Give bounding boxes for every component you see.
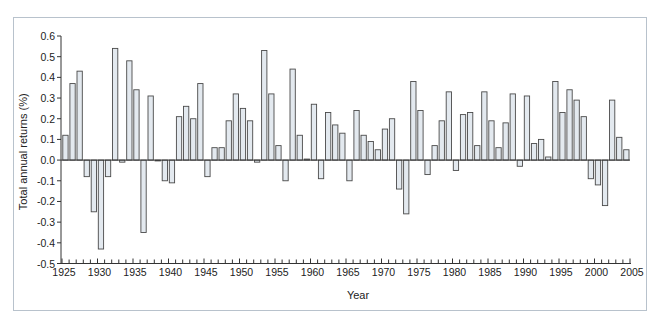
bar-1952 [247, 121, 252, 160]
y-tick-label: -0.4 [37, 237, 55, 249]
bar-1957 [283, 160, 288, 181]
bar-1985 [482, 92, 487, 160]
bar-1932 [105, 160, 110, 177]
bar-1965 [340, 133, 345, 160]
bar-1995 [553, 82, 558, 161]
x-tick-label: 1985 [478, 266, 502, 278]
bars [63, 48, 629, 249]
bar-1989 [510, 94, 515, 160]
bar-1927 [70, 84, 75, 161]
bar-1984 [475, 146, 480, 160]
x-tick-label: 2005 [620, 266, 644, 278]
bar-1943 [184, 106, 189, 160]
bar-1969 [368, 141, 373, 160]
bar-1968 [361, 135, 366, 160]
bar-1963 [326, 113, 331, 161]
bar-1978 [432, 146, 437, 160]
y-axis-title: Total annual returns (%) [17, 93, 29, 210]
x-tick-label: 1975 [407, 266, 431, 278]
y-tick-label: 0.4 [40, 71, 55, 83]
bar-1937 [141, 160, 146, 232]
bar-1998 [574, 100, 579, 160]
bar-1979 [439, 121, 444, 160]
bar-1975 [411, 82, 416, 161]
y-tick-label: 0.2 [40, 113, 55, 125]
bar-1948 [219, 148, 224, 160]
bar-1951 [240, 108, 245, 160]
bar-1977 [425, 160, 430, 174]
bar-1976 [418, 110, 423, 160]
x-tick-label: 1970 [372, 266, 396, 278]
bar-1988 [503, 123, 508, 160]
bar-1961 [311, 104, 316, 160]
bar-1947 [212, 148, 217, 160]
bar-1990 [517, 160, 522, 166]
bar-1949 [226, 121, 231, 160]
bar-1926 [63, 135, 68, 160]
bar-2001 [595, 160, 600, 185]
bar-1940 [162, 160, 167, 181]
x-tick-label: 1955 [265, 266, 289, 278]
bar-1982 [460, 115, 465, 161]
bar-1938 [148, 96, 153, 160]
bar-1959 [297, 135, 302, 160]
bar-1972 [389, 119, 394, 160]
bar-1956 [276, 146, 281, 160]
x-axis-ticks: 1925193019351940194519501955196019651970… [52, 259, 644, 278]
x-tick-label: 1945 [194, 266, 218, 278]
y-tick-label: 0.5 [40, 51, 55, 63]
y-tick-label: 0.0 [40, 154, 55, 166]
bar-1967 [354, 110, 359, 160]
bar-1942 [176, 117, 181, 160]
bar-1973 [397, 160, 402, 189]
x-tick-label: 1940 [159, 266, 183, 278]
bar-1955 [269, 94, 274, 160]
bar-1929 [84, 160, 89, 177]
bar-1944 [191, 119, 196, 160]
x-tick-label: 1965 [336, 266, 360, 278]
bar-1987 [496, 148, 501, 160]
y-tick-label: 0.3 [40, 92, 55, 104]
bar-1996 [560, 113, 565, 161]
bar-1999 [581, 117, 586, 160]
bar-1933 [113, 48, 118, 160]
bar-1992 [531, 144, 536, 161]
bar-1983 [468, 113, 473, 161]
y-axis-ticks: 0.60.50.40.30.20.10.0-0.1-0.2-0.3-0.4-0.… [37, 30, 61, 270]
x-tick-label: 1995 [549, 266, 573, 278]
x-tick-label: 2000 [585, 266, 609, 278]
y-tick-label: -0.3 [37, 216, 55, 228]
bar-1993 [539, 139, 544, 160]
bar-1945 [198, 84, 203, 161]
x-tick-label: 1930 [88, 266, 112, 278]
y-tick-label: -0.1 [37, 175, 55, 187]
bar-1980 [446, 92, 451, 160]
bar-1962 [318, 160, 323, 179]
x-tick-label: 1935 [123, 266, 147, 278]
bar-1970 [375, 150, 380, 160]
bar-1954 [262, 50, 267, 160]
y-tick-label: -0.2 [37, 195, 55, 207]
bar-1928 [77, 71, 82, 160]
bar-1974 [404, 160, 409, 214]
bar-2005 [624, 150, 629, 160]
bar-2002 [602, 160, 607, 206]
bar-1935 [127, 61, 132, 160]
bar-1964 [333, 125, 338, 160]
bar-2000 [588, 160, 593, 179]
bar-1986 [489, 121, 494, 160]
bar-1991 [524, 96, 529, 160]
x-axis-title: Year [347, 289, 370, 301]
bar-1981 [453, 160, 458, 170]
bar-2003 [610, 100, 615, 160]
bar-1958 [290, 69, 295, 160]
x-tick-label: 1980 [443, 266, 467, 278]
bar-chart: 0.60.50.40.30.20.10.0-0.1-0.2-0.3-0.4-0.… [0, 0, 663, 328]
x-tick-label: 1960 [301, 266, 325, 278]
bar-1930 [91, 160, 96, 212]
bar-2004 [617, 137, 622, 160]
y-tick-label: 0.6 [40, 30, 55, 42]
bar-1931 [98, 160, 103, 249]
bar-1997 [567, 90, 572, 160]
x-tick-label: 1950 [230, 266, 254, 278]
